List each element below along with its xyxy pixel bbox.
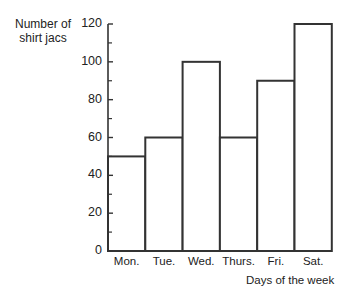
bar-2: [183, 62, 220, 251]
bar-5: [295, 24, 332, 251]
bar-3: [220, 138, 257, 252]
bar-4: [257, 81, 294, 251]
bar-1: [145, 138, 182, 252]
bar-0: [108, 156, 145, 251]
bar-chart-plot: [0, 0, 346, 295]
